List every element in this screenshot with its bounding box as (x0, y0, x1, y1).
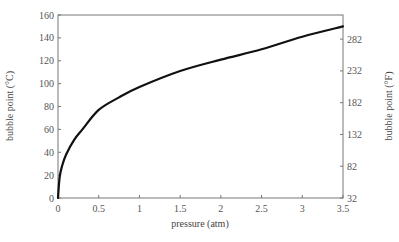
y2-axis-label: bubble point (°F) (383, 72, 395, 141)
y-tick-label: 0 (49, 193, 54, 204)
y2-tick-label: 282 (347, 34, 362, 45)
y2-tick-label: 232 (347, 65, 362, 76)
x-axis-label: pressure (atm) (171, 218, 228, 230)
plot-border (58, 15, 343, 198)
y-tick-label: 100 (39, 78, 54, 89)
y-tick-label: 20 (44, 170, 54, 181)
y2-tick-label: 132 (347, 129, 362, 140)
y-tick-label: 80 (44, 101, 54, 112)
x-tick-label: 3 (300, 203, 305, 214)
y-tick-label: 60 (44, 124, 54, 135)
plot-frame (58, 15, 343, 198)
x-tick-label: 3.5 (337, 203, 350, 214)
y-tick-label: 40 (44, 147, 54, 158)
y-axis-label: bubble point (°C) (4, 71, 16, 141)
y-tick-label: 140 (39, 32, 54, 43)
x-tick-label: 0 (56, 203, 61, 214)
x-tick-label: 1.5 (174, 203, 187, 214)
y-tick-label: 160 (39, 10, 54, 21)
x-tick-label: 0.5 (92, 203, 105, 214)
y-tick-label: 120 (39, 55, 54, 66)
y2-tick-label: 182 (347, 97, 362, 108)
x-tick-label: 2 (218, 203, 223, 214)
x-tick-label: 1 (137, 203, 142, 214)
bubble-point-chart: 00.511.522.533.5 020406080100120140160 3… (0, 0, 399, 242)
y2-tick-label: 82 (347, 161, 357, 172)
y2-tick-label: 32 (347, 193, 357, 204)
x-tick-label: 2.5 (255, 203, 268, 214)
bubble-point-curve (58, 26, 343, 198)
